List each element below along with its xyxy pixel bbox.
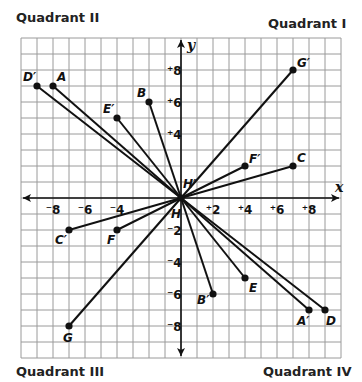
point-label-h-prime: H′ bbox=[183, 177, 197, 191]
point-dot bbox=[289, 162, 296, 169]
y-tick-label: ⁺8 bbox=[167, 64, 182, 78]
y-tick-label: ⁻8 bbox=[167, 320, 182, 334]
x-tick-label: ⁻8 bbox=[46, 203, 61, 217]
x-tick-label: ⁺6 bbox=[270, 203, 285, 217]
point-label: D bbox=[326, 314, 336, 328]
point-label: B bbox=[137, 86, 146, 100]
point-label: F′ bbox=[249, 152, 261, 166]
point-dot bbox=[49, 82, 56, 89]
point-dot bbox=[241, 274, 248, 281]
point-label: C bbox=[297, 151, 306, 165]
origin-dot bbox=[177, 194, 184, 201]
point-dot bbox=[209, 290, 216, 297]
y-tick-label: ⁻6 bbox=[167, 288, 182, 302]
point-dot bbox=[113, 114, 120, 121]
point-dot bbox=[321, 306, 328, 313]
x-axis-label: x bbox=[334, 179, 344, 195]
x-tick-label: ⁺4 bbox=[238, 203, 253, 217]
y-tick-label: ⁻4 bbox=[167, 256, 182, 270]
point-label: B′ bbox=[197, 293, 210, 307]
point-dot bbox=[305, 306, 312, 313]
point-dot bbox=[145, 98, 152, 105]
coordinate-plane: xy ⁻8⁻6⁻4⁺2⁺4⁺6⁺8⁺8⁺6⁺4⁻2⁻4⁻6⁻8 D′ABE′G′… bbox=[0, 0, 362, 382]
y-tick-label: ⁻2 bbox=[167, 224, 182, 238]
point-dot bbox=[241, 162, 248, 169]
y-axis-label: y bbox=[186, 37, 196, 53]
point-label: A′ bbox=[296, 314, 310, 328]
x-tick-label: ⁻6 bbox=[78, 203, 93, 217]
point-label-h: H bbox=[171, 207, 181, 221]
point-label: E′ bbox=[103, 102, 115, 116]
y-tick-label: ⁺4 bbox=[167, 128, 182, 142]
point-dot bbox=[289, 66, 296, 73]
point-label: F bbox=[107, 233, 116, 247]
y-tick-label: ⁺6 bbox=[167, 96, 182, 110]
x-tick-label: ⁺2 bbox=[206, 203, 221, 217]
x-tick-label: ⁺8 bbox=[302, 203, 317, 217]
point-label: E bbox=[249, 281, 258, 295]
point-label: D′ bbox=[23, 70, 37, 84]
point-label: G bbox=[63, 331, 73, 345]
point-dot bbox=[65, 322, 72, 329]
point-label: A bbox=[56, 70, 66, 84]
point-label: G′ bbox=[297, 56, 311, 70]
point-label: C′ bbox=[55, 233, 68, 247]
